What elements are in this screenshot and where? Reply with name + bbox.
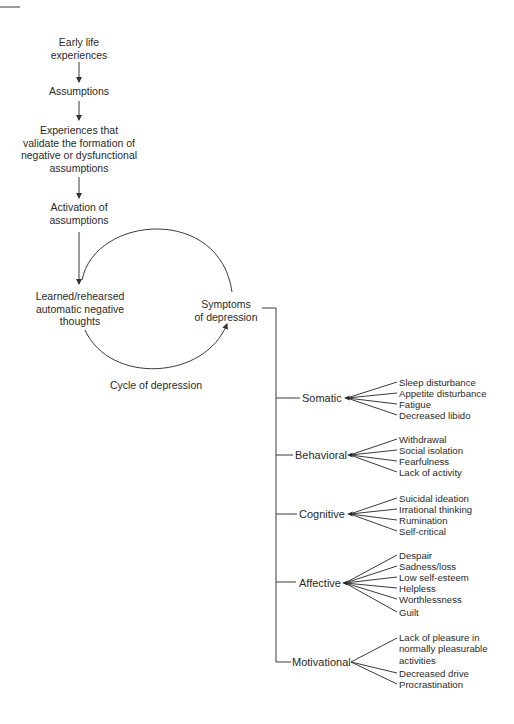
- symptom-item: Irrational thinking: [399, 504, 472, 515]
- symptom-item: Sleep disturbance: [399, 377, 476, 388]
- symptom-item: Social isolation: [399, 445, 463, 456]
- cycle-label: Cycle of depression: [110, 379, 202, 392]
- symptom-item: Rumination: [399, 515, 448, 526]
- symptom-item: Sadness/loss: [399, 561, 456, 572]
- symptom-item: Worthlessness: [399, 594, 462, 605]
- node-symptoms: Symptoms of depression: [194, 298, 257, 323]
- symptom-item: Fatigue: [399, 399, 431, 410]
- cycle-upper-arc: [82, 229, 232, 292]
- symptom-item: Guilt: [399, 607, 419, 618]
- category-affective: Affective: [299, 577, 341, 590]
- symptom-item: Despair: [399, 550, 432, 561]
- category-motivational: Motivational: [292, 656, 351, 669]
- category-behavioral: Behavioral: [295, 449, 347, 462]
- symptom-item: Low self-esteem: [399, 572, 469, 583]
- category-cognitive: Cognitive: [299, 508, 345, 521]
- cycle-lower-arc: [85, 324, 227, 369]
- fan-affective: [345, 555, 397, 612]
- fan-somatic: [347, 382, 397, 415]
- symptom-item: Appetite disturbance: [399, 388, 486, 399]
- symptom-item: Lack of activity: [399, 467, 462, 478]
- symptom-item: Decreased libido: [399, 410, 470, 421]
- symptom-item: Withdrawal: [399, 434, 446, 445]
- fan-motivational: [351, 638, 397, 684]
- node-activation: Activation of assumptions: [50, 201, 109, 226]
- symptom-item: Suicidal ideation: [399, 493, 469, 504]
- symptom-item: Helpless: [399, 583, 436, 594]
- fan-cognitive: [350, 498, 397, 531]
- symptom-item: Self-critical: [399, 526, 446, 537]
- diagram-connectors: [0, 0, 514, 724]
- symptom-item: Fearfulness: [399, 456, 449, 467]
- category-somatic: Somatic: [302, 392, 342, 405]
- node-learned-thoughts: Learned/rehearsed automatic negative tho…: [36, 290, 125, 328]
- node-validating-experiences: Experiences that validate the formation …: [21, 124, 137, 174]
- symptom-item: Lack of pleasure in normally pleasurable…: [399, 632, 499, 666]
- symptom-item: Procrastination: [399, 679, 463, 690]
- node-assumptions: Assumptions: [49, 85, 109, 98]
- fan-behavioral: [350, 439, 397, 472]
- node-early-life: Early life experiences: [51, 36, 108, 61]
- symptom-item: Decreased drive: [399, 668, 469, 679]
